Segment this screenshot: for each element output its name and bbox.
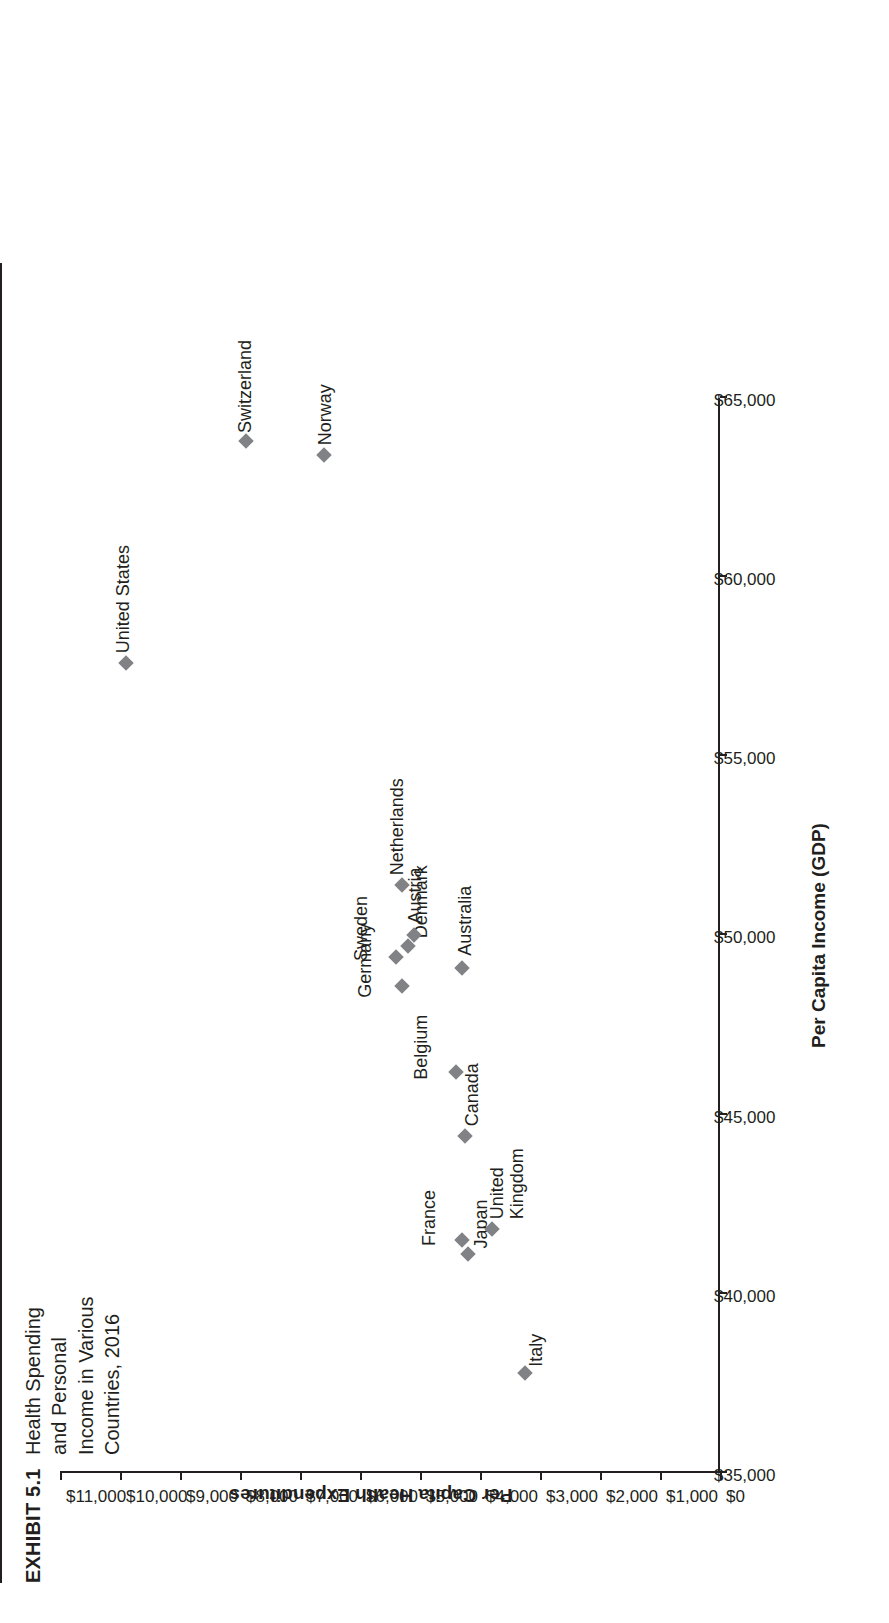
y-tick	[480, 1473, 482, 1480]
y-tick	[720, 1473, 722, 1480]
y-axis-title: Per Capita Health Expenditures	[131, 1484, 611, 1506]
data-point-marker	[118, 655, 134, 671]
x-tick-label: $45,000	[714, 1108, 775, 1128]
data-point-label: France	[419, 1190, 439, 1246]
exhibit-divider-rule	[0, 263, 2, 1583]
exhibit-number: EXHIBIT 5.1	[22, 1469, 44, 1583]
y-tick	[120, 1473, 122, 1480]
data-point-label: Italy	[526, 1334, 546, 1367]
data-point-label: Netherlands	[387, 778, 407, 875]
x-axis-title: Per Capita Income (GDP)	[808, 398, 830, 1473]
y-tick	[180, 1473, 182, 1480]
y-tick	[600, 1473, 602, 1480]
data-point-label: Australia	[455, 886, 475, 956]
data-point-marker	[454, 960, 470, 976]
data-point-marker	[517, 1365, 533, 1381]
x-tick-label: $35,000	[714, 1466, 775, 1486]
data-point-marker	[457, 1128, 473, 1144]
x-tick-label: $60,000	[714, 570, 775, 590]
data-point-marker	[388, 949, 404, 965]
y-tick	[300, 1473, 302, 1480]
x-tick-label: $40,000	[714, 1287, 775, 1307]
y-tick	[360, 1473, 362, 1480]
y-tick	[240, 1473, 242, 1480]
data-point-marker	[316, 448, 332, 464]
y-tick	[420, 1473, 422, 1480]
scatter-plot: $35,000$40,000$45,000$50,000$55,000$60,0…	[60, 398, 720, 1473]
y-tick	[660, 1473, 662, 1480]
data-point-marker	[460, 1247, 476, 1263]
data-point-label: United Kingdom	[487, 1148, 527, 1219]
data-point-marker	[238, 433, 254, 449]
y-axis-line	[60, 1471, 720, 1473]
data-point-label: Switzerland	[235, 340, 255, 433]
x-tick-label: $50,000	[714, 929, 775, 949]
x-tick-label: $65,000	[714, 391, 775, 411]
data-point-label: Austria	[405, 867, 425, 923]
data-point-label: Belgium	[411, 1015, 431, 1080]
exhibit-canvas: EXHIBIT 5.1 Health Spending and Personal…	[0, 0, 889, 1623]
y-tick	[60, 1473, 62, 1480]
x-tick-label: $55,000	[714, 749, 775, 769]
data-point-label: Norway	[315, 384, 335, 445]
data-point-label: United States	[113, 545, 133, 653]
data-point-label: Canada	[462, 1063, 482, 1126]
y-tick	[540, 1473, 542, 1480]
data-point-marker	[394, 978, 410, 994]
data-point-label: Sweden	[351, 896, 371, 961]
